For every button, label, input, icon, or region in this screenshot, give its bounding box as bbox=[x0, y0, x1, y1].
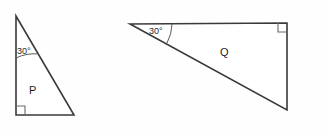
triangle-q-group bbox=[130, 23, 287, 110]
triangle-q-shape-label: Q bbox=[220, 46, 229, 58]
triangle-q-outline bbox=[130, 23, 287, 110]
triangle-p-outline bbox=[16, 16, 74, 115]
triangle-p-angle-label: 30° bbox=[17, 46, 31, 56]
triangles-canvas: 30° P 30° Q bbox=[0, 0, 330, 133]
geometry-figure: 30° P 30° Q bbox=[0, 0, 330, 133]
triangle-p-group bbox=[16, 16, 74, 115]
triangle-q-angle-label: 30° bbox=[149, 26, 163, 36]
triangle-p-shape-label: P bbox=[29, 84, 36, 96]
